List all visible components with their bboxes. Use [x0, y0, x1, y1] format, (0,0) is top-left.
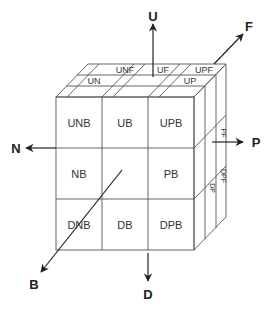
cell-db: DB — [117, 219, 132, 231]
right-face — [194, 64, 226, 250]
axis-label-b: B — [29, 277, 38, 292]
cell-uf: UF — [157, 65, 169, 75]
axis-label-d: D — [143, 287, 152, 302]
axis-label-p: P — [252, 135, 261, 150]
cell-ub: UB — [117, 117, 132, 129]
cell-dp: DP — [209, 183, 216, 193]
front-arrow-icon — [214, 34, 243, 64]
axis-label-f: F — [245, 19, 253, 34]
cell-unb: UNB — [67, 117, 90, 129]
cell-unf: UNF — [116, 65, 135, 75]
cell-up: UP — [184, 76, 197, 86]
cell-pb: PB — [164, 168, 179, 180]
cell-nb: NB — [71, 168, 86, 180]
axis-label-u: U — [148, 9, 157, 24]
cell-upb: UPB — [160, 117, 183, 129]
cell-dpf: DPF — [220, 169, 227, 183]
cell-pf: PF — [220, 129, 227, 138]
cube-diagram: UNB UB UPB NB PB DNB DB DPB UN UP UNF UF… — [0, 0, 276, 317]
back-arrow-icon — [41, 170, 122, 272]
cell-dpb: DPB — [160, 219, 183, 231]
axis-label-n: N — [11, 141, 20, 156]
cell-upf: UPF — [195, 65, 214, 75]
cell-un: UN — [88, 76, 101, 86]
